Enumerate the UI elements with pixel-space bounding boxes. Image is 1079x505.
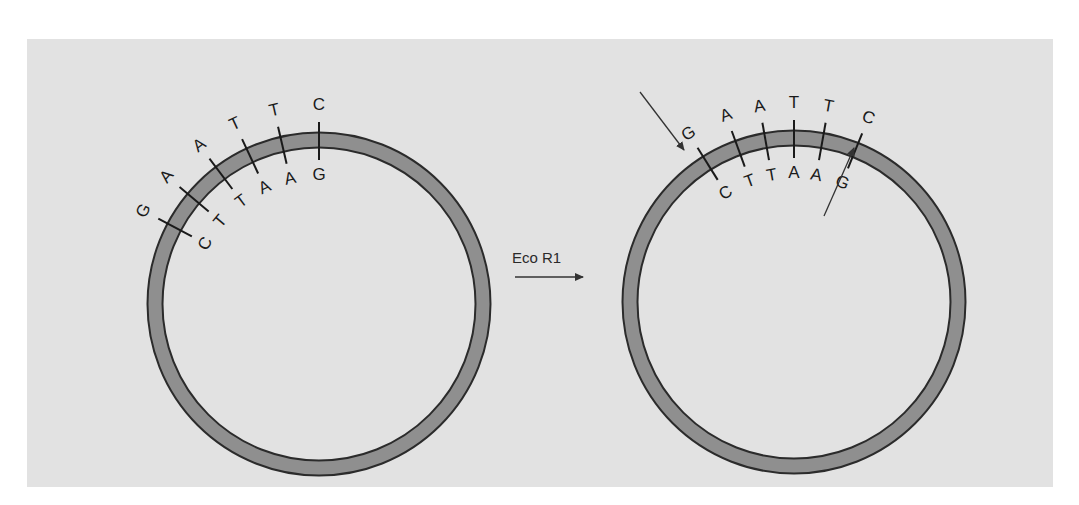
enzyme-label: Eco R1 (512, 249, 561, 266)
right-plasmid: GAATTC CTTAAG (630, 92, 958, 466)
left-top-base: A (156, 165, 178, 186)
right-top-base: G (678, 122, 699, 145)
right-top-base: A (752, 96, 767, 117)
right-bottom-base: C (715, 181, 735, 204)
left-bottom-base: T (231, 190, 251, 211)
right-bottom-base: T (765, 165, 779, 186)
right-bottom-base: A (788, 163, 800, 182)
right-bottom-base: T (742, 170, 758, 191)
left-top-base: C (313, 95, 325, 114)
right-top-base: T (822, 96, 836, 117)
left-bottom-base: T (210, 211, 231, 231)
enzyme-reaction-arrow: Eco R1 (512, 249, 583, 277)
left-bottom-base: A (255, 176, 274, 198)
left-top-base: T (267, 100, 281, 121)
right-top-base: A (717, 104, 735, 126)
right-top-base: T (789, 93, 799, 112)
left-top-base: T (226, 113, 243, 135)
right-bottom-base: A (809, 165, 824, 186)
plasmid-diagram: GAATTC CTTAAG Eco R1 GAATTC CTTAAG (0, 0, 1079, 505)
left-bottom-base: A (282, 168, 298, 189)
left-plasmid: GAATTC CTTAAG (132, 95, 483, 468)
left-bottom-base: G (312, 165, 325, 184)
top-strand-cut-arrow (640, 92, 684, 150)
left-top-base: G (132, 200, 155, 221)
right-top-base: C (859, 106, 878, 128)
left-top-base: A (189, 134, 210, 156)
left-bottom-base: C (194, 234, 217, 254)
